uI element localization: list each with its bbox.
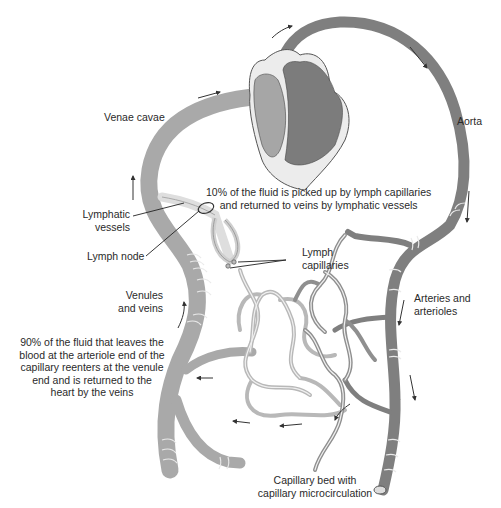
arrow-aorta-top [272,26,292,38]
label-venules-and-veins: Venules and veins [100,289,163,314]
vein-branch-lower [176,400,240,463]
arrow-vein-up-lower [178,302,184,328]
arrow-aorta-right-2 [467,191,469,222]
label-lymph-capillaries: Lymph capillaries [302,246,349,271]
label-venae-cavae: Venae cavae [104,111,165,124]
arrow-capillary-3 [280,424,302,426]
label-lymph-node: Lymph node [87,250,144,263]
circulation-diagram [0,0,501,508]
heart [249,50,349,190]
arrow-artery-down-1 [399,300,404,325]
label-aorta: Aorta [457,115,482,128]
venule-branch [186,352,252,370]
arrow-artery-down-2 [410,375,415,400]
label-lymphatic-vessels: Lymphatic vessels [80,208,130,233]
arteriole-branch-lower [345,380,390,412]
lymph-capillary-end-1 [232,260,236,264]
arrow-capillary-2 [233,421,250,423]
label-capillary-bed: Capillary bed with capillary microcircul… [250,474,380,499]
label-lymph-fluid-note: 10% of the fluid is picked up by lymph c… [206,186,431,211]
label-arteries-and-arterioles: Arteries and arterioles [414,292,471,317]
artery-branch-upper [348,232,410,245]
lymph-capillary-end-2 [226,264,230,268]
label-venous-return-note: 90% of the fluid that leaves the blood a… [14,336,170,399]
